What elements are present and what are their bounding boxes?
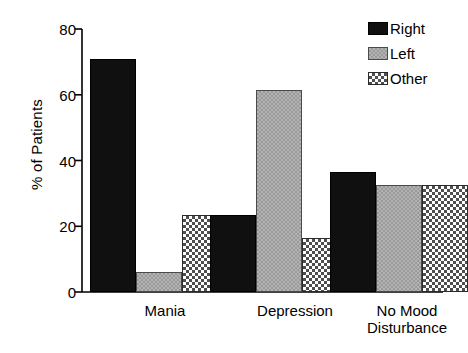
bar-mania-left [136, 272, 182, 292]
legend-item-left: Left [368, 42, 428, 64]
legend-swatch-other-icon [368, 72, 388, 85]
legend-swatch-left-icon [368, 47, 388, 60]
legend-swatch-right-icon [368, 22, 388, 35]
legend-label-other: Other [390, 71, 428, 86]
x-tick-label-mania: Mania [110, 302, 220, 319]
legend-label-left: Left [390, 46, 415, 61]
x-tick-label-no-mood-disturbance: No Mood Disturbance [347, 302, 467, 336]
legend: Right Left Other [368, 17, 428, 92]
bar-depression-left [256, 90, 302, 292]
legend-item-other: Other [368, 67, 428, 89]
bar-no-mood-other [422, 185, 468, 292]
bar-mania-right [90, 59, 136, 292]
legend-label-right: Right [390, 21, 425, 36]
bar-no-mood-left [376, 185, 422, 292]
x-tick-label-depression: Depression [230, 302, 360, 319]
bar-no-mood-right [330, 172, 376, 292]
bar-depression-right [210, 215, 256, 292]
legend-item-right: Right [368, 17, 428, 39]
